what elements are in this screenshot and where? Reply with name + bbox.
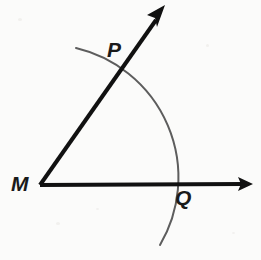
- horizontal-ray-group: [40, 177, 253, 191]
- construction-arc: [76, 48, 178, 245]
- point-label-q: Q: [175, 187, 191, 208]
- point-label-p: P: [107, 39, 121, 60]
- geometry-figure-canvas: M P Q: [0, 0, 261, 260]
- diagonal-ray-arrowhead: [147, 5, 165, 27]
- diagonal-ray-group: [40, 5, 165, 185]
- horizontal-ray-line: [40, 184, 243, 185]
- vertex-label-m: M: [11, 173, 29, 194]
- construction-arc-group: [76, 48, 178, 245]
- figure-vector-layer: [0, 0, 261, 260]
- diagonal-ray-line: [40, 20, 156, 185]
